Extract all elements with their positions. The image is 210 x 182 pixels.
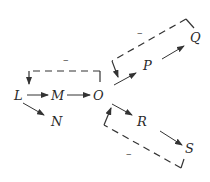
node-p: P — [142, 58, 152, 73]
node-o: O — [93, 88, 104, 103]
edge-o-r — [112, 104, 132, 115]
node-r: R — [136, 114, 147, 129]
node-m: M — [50, 88, 65, 103]
feedback-loop-q-to-op — [112, 19, 194, 77]
node-s: S — [185, 141, 194, 156]
inhibition-sign-1: – — [63, 53, 69, 66]
edge-p-q — [162, 46, 184, 59]
pathway-diagram: – – – L M N O P Q R S — [0, 0, 210, 182]
node-l: L — [13, 88, 23, 103]
edge-r-s — [160, 131, 182, 145]
inhibition-sign-2: – — [137, 26, 143, 39]
feedback-loop-o-to-lm — [29, 71, 100, 84]
node-q: Q — [190, 30, 201, 45]
edge-l-n — [23, 103, 44, 115]
inhibition-sign-3: – — [126, 147, 132, 160]
node-n: N — [50, 114, 63, 129]
